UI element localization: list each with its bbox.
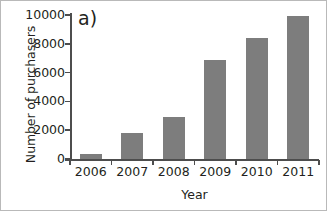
y-axis-tick-labels: 0200040006000800010000 [17, 1, 65, 211]
y-axis-tick-label: 6000 [17, 66, 65, 79]
x-axis-tick-label: 2010 [241, 166, 273, 179]
y-axis-tick-label: 4000 [17, 95, 65, 108]
bar-chart-figure: a) Number of purchasers 0200040006000800… [0, 0, 327, 211]
y-axis-tick-label: 2000 [17, 124, 65, 137]
x-axis-title: Year [70, 187, 319, 202]
x-axis-tick-label: 2008 [158, 166, 190, 179]
x-axis-tick-label: 2007 [116, 166, 148, 179]
y-axis-tick-label: 0 [17, 153, 65, 166]
y-axis-tick-label: 8000 [17, 38, 65, 51]
x-axis-tick-label: 2009 [199, 166, 231, 179]
x-axis-tick-label: 2006 [75, 166, 107, 179]
x-axis-tick-label: 2011 [282, 166, 314, 179]
y-axis-tick-label: 10000 [17, 9, 65, 22]
x-axis-tick-labels: 200620072008200920102011 [70, 1, 319, 211]
